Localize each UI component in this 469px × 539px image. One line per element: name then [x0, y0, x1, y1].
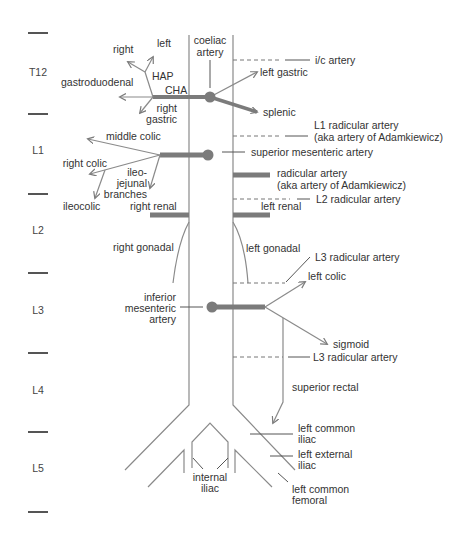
level-label-t12: T12	[29, 66, 47, 78]
radicular-artery-label: (aka artery of Adamkiewicz)	[277, 179, 406, 191]
radicular-lower: L3 radicular artery	[233, 351, 398, 363]
internal-iliac-pointer	[193, 458, 203, 469]
superior-rectal-label: superior rectal	[292, 381, 359, 393]
left-external-iliac-label: iliac	[298, 459, 316, 471]
ima-label: artery	[149, 313, 177, 325]
internal-iliac-pointer	[217, 458, 228, 469]
right-hepatic-label: right	[113, 43, 134, 55]
coeliac-origin-node	[205, 92, 216, 103]
left-hepatic-label: left	[157, 37, 171, 49]
l1-radicular-label: L1 radicular artery	[314, 119, 399, 131]
ileojejunal-branches	[150, 155, 160, 188]
right-external-iliac	[148, 450, 184, 487]
gastroduodenal-label: gastroduodenal	[61, 76, 133, 88]
right-renal-label: right renal	[130, 200, 177, 212]
aorta	[125, 35, 295, 487]
left-external-iliac	[235, 450, 272, 487]
superior-rectal-artery	[273, 318, 283, 423]
sma-label: superior mesenteric artery	[251, 146, 374, 158]
left-common-femoral-pointer	[278, 473, 288, 482]
l3-radicular-upper-label: L3 radicular artery	[315, 251, 400, 263]
right-gastric-label: gastric	[146, 113, 177, 125]
cha-label: CHA	[165, 84, 187, 96]
middle-colic-label: middle colic	[106, 130, 161, 142]
l1-radicular-label: (aka artery of Adamkiewicz)	[314, 131, 443, 143]
right-gonadal-artery	[173, 222, 189, 283]
left-colic-label: left colic	[308, 270, 346, 282]
iliac-labels: left common iliac left external iliac in…	[193, 422, 356, 506]
gonadal-arteries: right gonadal left gonadal L3 radicular …	[113, 222, 400, 283]
level-label-l1: L1	[32, 144, 44, 156]
radicular-artery-label: radicular artery	[277, 167, 348, 179]
coeliac-label: artery	[197, 46, 225, 58]
left-gonadal-label: left gonadal	[246, 242, 300, 254]
level-label-l5: L5	[32, 462, 44, 474]
l3-radicular-lower-label: L3 radicular artery	[313, 351, 398, 363]
ileocolic-label: ileocolic	[63, 200, 100, 212]
left-gastric-label: left gastric	[260, 66, 308, 78]
internal-iliac-label: iliac	[201, 482, 219, 494]
left-common-iliac-label: iliac	[298, 433, 316, 445]
right-colic-label: right colic	[63, 157, 107, 169]
renal-arteries: right renal left renal	[130, 200, 301, 215]
right-gastric-artery	[140, 97, 153, 113]
level-label-l4: L4	[32, 384, 44, 396]
ima-origin-node	[207, 302, 218, 313]
sigmoid-artery	[265, 307, 327, 344]
l3-radicular-upper-pointer	[286, 257, 310, 282]
level-label-l3: L3	[32, 304, 44, 316]
left-common-femoral-label: femoral	[292, 494, 327, 506]
ileojejunal-label: branches	[104, 188, 147, 200]
splenic-label: splenic	[263, 106, 296, 118]
sma-origin-node	[203, 150, 214, 161]
right-hepatic-artery	[128, 62, 145, 72]
aorta-branches-diagram: T12 L1 L2 L3 L4 L5 coeliac artery right …	[0, 0, 469, 539]
right-gonadal-label: right gonadal	[113, 241, 174, 253]
radicular-middle: radicular artery (aka artery of Adamkiew…	[233, 167, 406, 205]
left-colic-artery	[265, 282, 305, 307]
l2-radicular-label: L2 radicular artery	[316, 193, 401, 205]
level-label-l2: L2	[32, 224, 44, 236]
ic-artery-label: i/c artery	[315, 54, 356, 66]
sigmoid-label: sigmoid	[333, 338, 369, 350]
hap-label: HAP	[152, 70, 174, 82]
vertebral-scale: T12 L1 L2 L3 L4 L5	[28, 33, 48, 512]
coeliac-trunk: coeliac artery right left HAP CHA gastro…	[61, 34, 308, 125]
coeliac-label: coeliac	[194, 34, 227, 46]
left-renal-label: left renal	[261, 200, 301, 212]
inferior-mesenteric-artery: inferior mesenteric artery left colic si…	[125, 270, 370, 423]
internal-iliac-arch	[192, 423, 228, 468]
